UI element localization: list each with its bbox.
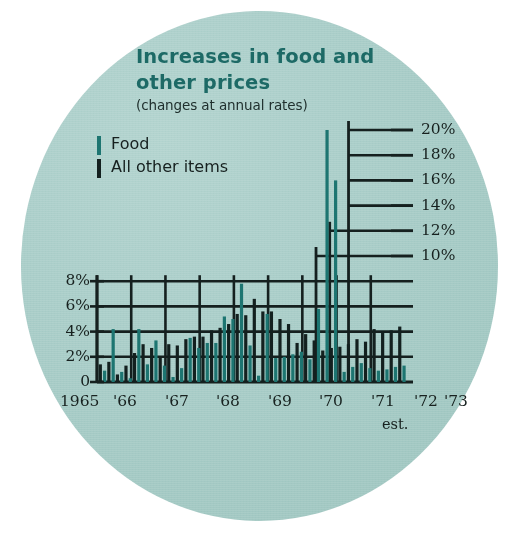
x-axis-year-label: '70 [319, 392, 343, 410]
bar-all-other-items [133, 353, 136, 382]
bar-food [248, 345, 251, 382]
bar-food [360, 363, 363, 382]
x-axis-year-label: '69 [268, 392, 292, 410]
bar-food [385, 369, 388, 382]
figure-root: Increases in food and other prices (chan… [0, 0, 517, 534]
bar-all-other-items [141, 344, 144, 382]
bar-food [291, 354, 294, 382]
bar-food [351, 367, 354, 382]
bar-all-other-items [398, 327, 401, 382]
bar-food [283, 357, 286, 382]
bar-food [325, 130, 328, 382]
y-axis-tick-left: 4% [48, 322, 90, 340]
bar-all-other-items [227, 324, 230, 382]
bar-all-other-items [390, 330, 393, 382]
bar-all-other-items [150, 348, 153, 382]
plot-svg [0, 0, 517, 534]
bar-all-other-items [364, 342, 367, 382]
bar-food [129, 378, 132, 382]
y-axis-tick-right: 16% [421, 170, 455, 188]
y-axis-tick-right: 14% [421, 196, 455, 214]
bar-food [189, 338, 192, 382]
bar-food [274, 358, 277, 382]
bar-all-other-items [372, 329, 375, 382]
bar-all-other-items [270, 311, 273, 382]
bar-food [334, 180, 337, 382]
bar-all-other-items [381, 332, 384, 382]
x-axis-year-label: '68 [216, 392, 240, 410]
bar-all-other-items [159, 357, 162, 382]
bar-all-other-items [347, 344, 350, 382]
bar-food [394, 367, 397, 382]
bar-food [223, 316, 226, 382]
bar-all-other-items [313, 340, 316, 382]
bar-all-other-items [176, 345, 179, 382]
bar-all-other-items [261, 311, 264, 382]
bar-all-other-items [338, 347, 341, 382]
bar-food [317, 309, 320, 382]
bar-food [112, 329, 115, 382]
bar-all-other-items [321, 351, 324, 383]
x-axis-year-label: '71 [371, 392, 395, 410]
x-axis-year-label: '67 [165, 392, 189, 410]
bar-all-other-items [278, 319, 281, 382]
bar-food [120, 372, 123, 382]
bar-food [266, 314, 269, 382]
bar-all-other-items [244, 315, 247, 382]
bar-all-other-items [218, 328, 221, 382]
bar-food [240, 284, 243, 382]
bar-food [231, 319, 234, 382]
bar-food [137, 329, 140, 382]
bar-all-other-items [236, 314, 239, 382]
bar-food [197, 348, 200, 382]
bar-food [377, 371, 380, 382]
bar-food [308, 359, 311, 382]
bar-food [180, 368, 183, 382]
bar-all-other-items [167, 344, 170, 382]
y-axis-tick-left: 2% [48, 347, 90, 365]
bar-all-other-items [253, 299, 256, 382]
x-axis-year-label: '66 [113, 392, 137, 410]
bar-food [300, 352, 303, 382]
bar-food [257, 376, 260, 382]
y-axis-tick-right: 18% [421, 145, 455, 163]
y-axis-tick-left: 0 [48, 372, 90, 390]
bar-food [343, 372, 346, 382]
y-axis-tick-left: 6% [48, 296, 90, 314]
bar-food [214, 343, 217, 382]
bar-all-other-items [295, 343, 298, 382]
bar-all-other-items [287, 324, 290, 382]
bar-food [163, 366, 166, 382]
y-axis-tick-right: 20% [421, 120, 455, 138]
bar-all-other-items [355, 339, 358, 382]
bar-all-other-items [116, 374, 119, 382]
y-axis-tick-right: 10% [421, 246, 455, 264]
y-axis-tick-left: 8% [48, 271, 90, 289]
bar-food [146, 364, 149, 382]
y-axis-tick-right: 12% [421, 221, 455, 239]
x-axis-year-label: 1965 [60, 392, 99, 410]
bar-all-other-items [99, 364, 102, 382]
x-axis-year-label: '72 [414, 392, 438, 410]
bar-food [103, 371, 106, 382]
bar-all-other-items [193, 337, 196, 382]
bar-food [154, 340, 157, 382]
estimate-note: est. [382, 416, 408, 432]
bar-food [206, 343, 209, 382]
bar-all-other-items [107, 362, 110, 382]
bar-all-other-items [210, 330, 213, 382]
bar-food [368, 368, 371, 382]
bar-all-other-items [304, 334, 307, 382]
bar-all-other-items [184, 339, 187, 382]
plot-area [0, 0, 477, 510]
bar-all-other-items [330, 348, 333, 382]
bar-all-other-items [124, 366, 127, 382]
bar-food [171, 377, 174, 382]
x-axis-year-label: '73 [444, 392, 468, 410]
bar-all-other-items [201, 337, 204, 382]
bar-food [402, 366, 405, 382]
